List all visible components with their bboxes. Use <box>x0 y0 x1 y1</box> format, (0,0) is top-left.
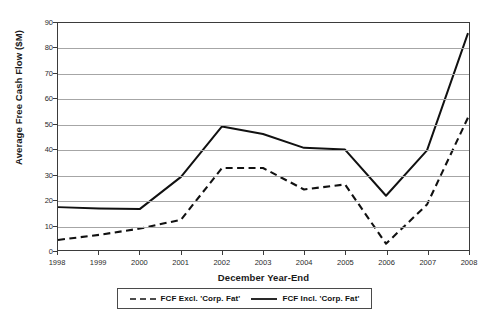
y-tick-label: 70 <box>31 68 53 77</box>
x-tick-mark <box>139 251 140 255</box>
x-tick-label: 1998 <box>37 258 77 267</box>
y-tick-mark <box>53 47 57 48</box>
x-tick-mark <box>98 251 99 255</box>
y-tick-mark <box>53 124 57 125</box>
y-tick-label: 0 <box>31 247 53 256</box>
x-tick-mark <box>181 251 182 255</box>
y-tick-label: 60 <box>31 94 53 103</box>
y-tick-label: 80 <box>31 43 53 52</box>
x-tick-mark <box>57 251 58 255</box>
y-tick-mark <box>53 98 57 99</box>
x-tick-label: 2003 <box>243 258 283 267</box>
x-tick-label: 2004 <box>284 258 324 267</box>
series-line-fcf-incl <box>58 33 468 209</box>
x-tick-label: 1999 <box>78 258 118 267</box>
legend-label-fcf-excl: FCF Excl. 'Corp. Fat' <box>161 294 241 303</box>
x-tick-mark <box>263 251 264 255</box>
y-tick-mark <box>53 226 57 227</box>
x-tick-mark <box>222 251 223 255</box>
x-tick-mark <box>428 251 429 255</box>
x-tick-label: 2006 <box>367 258 407 267</box>
y-tick-mark <box>53 200 57 201</box>
x-tick-mark <box>387 251 388 255</box>
plot-area <box>57 22 470 251</box>
y-tick-label: 50 <box>31 119 53 128</box>
chart-figure: Average Free Cash Flow ($M) December Yea… <box>0 0 489 321</box>
x-tick-label: 2000 <box>119 258 159 267</box>
gridline <box>58 227 469 228</box>
legend-swatch-dashed-icon <box>130 295 156 303</box>
gridline <box>58 150 469 151</box>
gridline <box>58 125 469 126</box>
y-tick-mark <box>53 149 57 150</box>
x-tick-label: 2001 <box>161 258 201 267</box>
y-tick-label: 30 <box>31 170 53 179</box>
legend-swatch-solid-icon <box>251 295 277 303</box>
gridline <box>58 99 469 100</box>
x-tick-label: 2002 <box>202 258 242 267</box>
gridline <box>58 48 469 49</box>
series-layer <box>58 23 469 250</box>
gridline <box>58 176 469 177</box>
y-tick-label: 40 <box>31 145 53 154</box>
chart-legend: FCF Excl. 'Corp. Fat' FCF Incl. 'Corp. F… <box>117 288 372 309</box>
y-tick-mark <box>53 22 57 23</box>
series-line-fcf-excl <box>58 118 468 244</box>
y-axis-title: Average Free Cash Flow ($M) <box>13 0 24 198</box>
y-tick-label: 10 <box>31 221 53 230</box>
y-tick-label: 90 <box>31 18 53 27</box>
x-tick-label: 2007 <box>408 258 448 267</box>
y-tick-mark <box>53 73 57 74</box>
gridline <box>58 74 469 75</box>
legend-item-fcf-incl: FCF Incl. 'Corp. Fat' <box>251 294 359 303</box>
legend-label-fcf-incl: FCF Incl. 'Corp. Fat' <box>282 294 359 303</box>
y-tick-mark <box>53 175 57 176</box>
legend-item-fcf-excl: FCF Excl. 'Corp. Fat' <box>130 294 241 303</box>
x-tick-label: 2005 <box>325 258 365 267</box>
x-axis-title: December Year-End <box>57 272 470 283</box>
x-tick-label: 2008 <box>449 258 489 267</box>
x-tick-mark <box>345 251 346 255</box>
x-tick-mark <box>304 251 305 255</box>
x-tick-mark <box>469 251 470 255</box>
gridline <box>58 201 469 202</box>
y-tick-label: 20 <box>31 196 53 205</box>
clipped-caption-strip <box>14 0 134 7</box>
